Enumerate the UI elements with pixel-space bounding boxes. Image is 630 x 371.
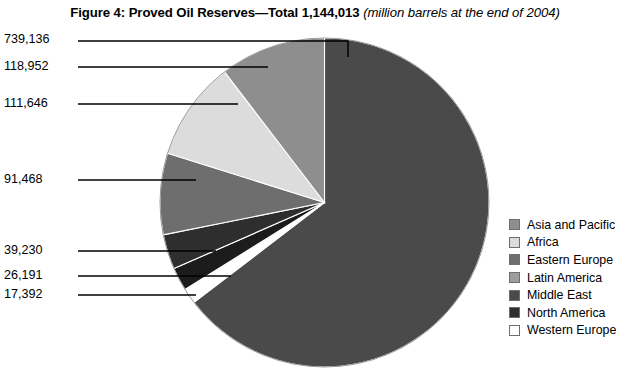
legend-color-swatch [509, 290, 520, 301]
slice-value-label: 39,230 [4, 243, 43, 257]
legend-item[interactable]: North America [509, 304, 616, 322]
legend-color-swatch [509, 272, 520, 283]
slice-value-label: 739,136 [4, 32, 50, 46]
legend-item[interactable]: Western Europe [509, 322, 616, 340]
legend-color-swatch [509, 254, 520, 265]
legend-item-label: Asia and Pacific [527, 218, 615, 232]
slice-value-label: 118,952 [4, 59, 49, 73]
legend: Asia and PacificAfricaEastern EuropeLati… [509, 216, 616, 339]
legend-item[interactable]: Asia and Pacific [509, 216, 616, 234]
slice-value-label: 91,468 [4, 172, 43, 186]
legend-item-label: Western Europe [527, 323, 616, 337]
pie-slice-group [160, 38, 489, 367]
legend-color-swatch [509, 307, 520, 318]
legend-item-label: Latin America [527, 271, 602, 285]
slice-value-label: 17,392 [4, 287, 43, 301]
legend-item-label: Middle East [527, 288, 592, 302]
legend-color-swatch [509, 237, 520, 248]
legend-item-label: Eastern Europe [527, 253, 613, 267]
legend-item[interactable]: Africa [509, 234, 616, 252]
legend-item-label: Africa [527, 235, 559, 249]
legend-item-label: North America [527, 306, 606, 320]
legend-item[interactable]: Middle East [509, 286, 616, 304]
legend-color-swatch [509, 325, 520, 336]
slice-value-label: 111,646 [4, 96, 48, 110]
legend-item[interactable]: Eastern Europe [509, 251, 616, 269]
legend-item[interactable]: Latin America [509, 269, 616, 287]
figure-container: Figure 4: Proved Oil Reserves—Total 1,14… [0, 0, 630, 371]
slice-value-label: 26,191 [4, 268, 43, 282]
legend-color-swatch [509, 219, 520, 230]
